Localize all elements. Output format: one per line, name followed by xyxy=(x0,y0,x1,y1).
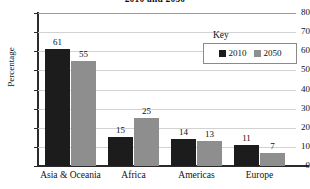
bar-value-label: 61 xyxy=(45,38,70,47)
bar-group: 117 xyxy=(234,13,285,166)
bar-value-label: 15 xyxy=(108,126,133,135)
bar-2010-africa xyxy=(108,137,133,166)
y-axis-label: Percentage xyxy=(6,22,16,112)
y-tick-mark-0 xyxy=(34,166,38,167)
x-axis-category-label: Europe xyxy=(220,170,299,180)
bar-2050-africa xyxy=(134,118,159,166)
legend-label: 2050 xyxy=(264,49,282,58)
bar-2010-americas xyxy=(171,139,196,166)
bar-value-label: 13 xyxy=(197,130,222,139)
bar-value-label: 55 xyxy=(71,50,96,59)
legend-swatch-icon xyxy=(219,50,226,57)
legend-label: 2010 xyxy=(229,49,247,58)
bar-group: 1525 xyxy=(108,13,159,166)
chart-title: 2010 and 2050 xyxy=(0,0,310,4)
legend-swatch-icon xyxy=(254,50,261,57)
legend-item-2050[interactable]: 2050 xyxy=(254,49,282,58)
bar-group: 6155 xyxy=(45,13,96,166)
bar-2050-asia-oceania xyxy=(71,61,96,166)
bar-value-label: 7 xyxy=(260,142,285,151)
legend: 20102050 xyxy=(203,43,297,64)
bar-value-label: 14 xyxy=(171,128,196,137)
bar-2010-asia-oceania xyxy=(45,49,70,166)
legend-item-2010[interactable]: 2010 xyxy=(219,49,247,58)
bar-value-label: 25 xyxy=(134,107,159,116)
bar-2050-americas xyxy=(197,141,222,166)
bar-2050-europe xyxy=(260,153,285,166)
bar-value-label: 11 xyxy=(234,134,259,143)
bar-2010-europe xyxy=(234,145,259,166)
legend-title: Key xyxy=(213,30,229,40)
bar-chart: 2010 and 2050 Percentage 010203040506070… xyxy=(0,0,310,189)
